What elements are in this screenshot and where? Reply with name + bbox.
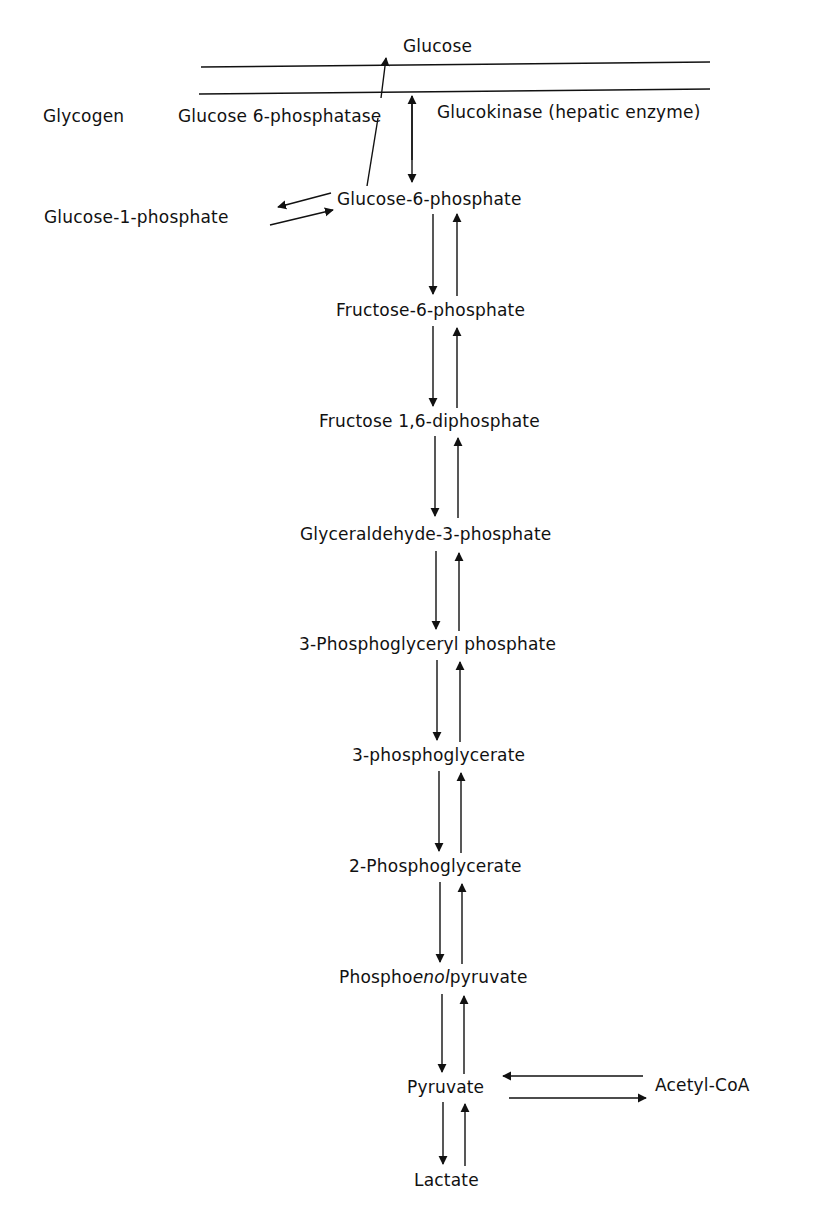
pep-prefix: Phospho [339,967,413,987]
pathway-arrows [0,0,823,1215]
phosphatase-label: Glucose 6-phosphatase [178,106,382,126]
g1p-label: Glucose-1-phosphate [44,207,229,227]
glycogen-label: Glycogen [43,106,124,126]
glucokinase-label: Glucokinase (hepatic enzyme) [437,102,701,122]
pep-suffix: pyruvate [450,967,528,987]
node-glyceraldehyde-3-phosphate: Glyceraldehyde-3-phosphate [300,524,551,544]
membrane-line-bottom [199,89,710,94]
node-pyruvate: Pyruvate [407,1077,484,1097]
pep-italic: enol [413,967,450,987]
node-phosphoenolpyruvate: Phosphoenolpyruvate [339,967,528,987]
node-fructose-1-6-diphosphate: Fructose 1,6-diphosphate [319,411,540,431]
node-2-phosphoglycerate: 2-Phosphoglycerate [349,856,522,876]
glucose-label: Glucose [403,36,472,56]
node-3-phosphoglycerate: 3-phosphoglycerate [352,745,525,765]
node-3-phosphoglyceryl-phosphate: 3-Phosphoglyceryl phosphate [299,634,556,654]
phosphatase-line [367,118,378,186]
node-lactate: Lactate [414,1170,479,1190]
node-fructose-6-phosphate: Fructose-6-phosphate [336,300,525,320]
membrane-line-top [201,62,710,67]
node-glucose-6-phosphate: Glucose-6-phosphate [337,189,522,209]
g6p-to-g1p-arrow [278,193,331,207]
node-acetyl-coa: Acetyl-CoA [655,1075,750,1095]
g1p-to-g6p-arrow [270,210,333,225]
